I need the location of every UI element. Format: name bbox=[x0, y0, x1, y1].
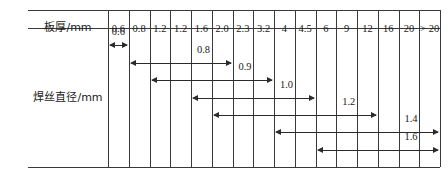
arrow-line-1.6 bbox=[318, 150, 439, 151]
arrow-label-1.2: 1.2 bbox=[336, 96, 362, 108]
header-cell-12: 12 bbox=[357, 21, 378, 36]
header-cell-10: 6 bbox=[316, 21, 337, 36]
arrow-row-1.2 bbox=[28, 108, 440, 122]
arrow-head-left-1.6 bbox=[317, 147, 323, 153]
header-cell-5: 2.0 bbox=[212, 21, 233, 36]
header-cell-1: 0.8 bbox=[129, 21, 150, 36]
arrow-line-0.8 bbox=[131, 63, 231, 64]
arrow-label-1.4: 1.4 bbox=[398, 113, 424, 125]
table-figure: 板厚/mm0.60.81.21.21.62.02.33.244.56912162… bbox=[0, 0, 448, 179]
arrow-line-1.2 bbox=[214, 115, 376, 116]
arrow-line-1.0 bbox=[193, 98, 314, 99]
arrow-head-right-1.6 bbox=[433, 147, 439, 153]
arrow-head-right-1.0 bbox=[309, 95, 315, 101]
arrow-head-right-0.8 bbox=[226, 60, 232, 66]
arrow-head-left-0.9 bbox=[151, 77, 157, 83]
arrow-label-1.6: 1.6 bbox=[398, 131, 424, 143]
header-cell-7: 3.2 bbox=[253, 21, 274, 36]
header-cell-9: 4.5 bbox=[295, 21, 316, 36]
header-cell-3: 1.2 bbox=[170, 21, 191, 36]
arrow-row-1.6 bbox=[28, 143, 440, 157]
arrow-head-right-0.6 bbox=[122, 42, 128, 48]
arrow-row-1.0 bbox=[28, 91, 440, 105]
arrow-head-right-0.9 bbox=[267, 77, 273, 83]
header-plate-thickness-label: 板厚/mm bbox=[28, 20, 108, 36]
table-rule-2 bbox=[28, 167, 440, 168]
arrow-row-0.9 bbox=[28, 73, 440, 87]
arrow-label-0.8: 0.8 bbox=[190, 44, 216, 56]
header-cell-14: 20 bbox=[399, 21, 420, 36]
header-cell-11: 9 bbox=[336, 21, 357, 36]
arrow-head-left-0.6 bbox=[109, 42, 115, 48]
header-cell-13: 16 bbox=[378, 21, 399, 36]
arrow-head-left-1.2 bbox=[213, 112, 219, 118]
column-divider-16 bbox=[440, 10, 441, 167]
header-cell-8: 4 bbox=[274, 21, 295, 36]
arrow-head-right-1.4 bbox=[433, 129, 439, 135]
header-cell-15: > 20 bbox=[419, 21, 440, 36]
header-cell-4: 1.6 bbox=[191, 21, 212, 36]
arrow-head-right-1.2 bbox=[371, 112, 377, 118]
header-cell-2: 1.2 bbox=[150, 21, 171, 36]
arrow-head-left-1.4 bbox=[275, 129, 281, 135]
header-cell-6: 2.3 bbox=[233, 21, 254, 36]
wire-diameter-table: 板厚/mm0.60.81.21.21.62.02.33.244.56912162… bbox=[28, 10, 440, 167]
arrow-row-0.6 bbox=[28, 38, 440, 52]
arrow-label-1.0: 1.0 bbox=[273, 79, 299, 91]
arrow-line-0.9 bbox=[152, 80, 273, 81]
arrow-head-left-0.8 bbox=[130, 60, 136, 66]
arrow-label-0.9: 0.9 bbox=[232, 61, 258, 73]
arrow-head-left-1.0 bbox=[192, 95, 198, 101]
arrow-label-0.6: 0.6 bbox=[105, 26, 131, 38]
arrow-row-1.4 bbox=[28, 125, 440, 139]
